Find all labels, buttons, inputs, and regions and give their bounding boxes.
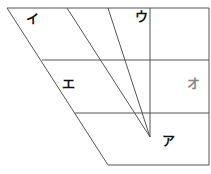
chart-outline (7, 8, 209, 165)
outer-frame (7, 8, 209, 165)
label-o: オ (187, 76, 200, 91)
label-i: イ (26, 11, 39, 26)
label-a: ア (162, 133, 175, 148)
label-e: エ (62, 76, 75, 91)
diagonal-right (108, 8, 150, 137)
label-u: ウ (135, 9, 148, 24)
diagonal-left (67, 8, 150, 137)
